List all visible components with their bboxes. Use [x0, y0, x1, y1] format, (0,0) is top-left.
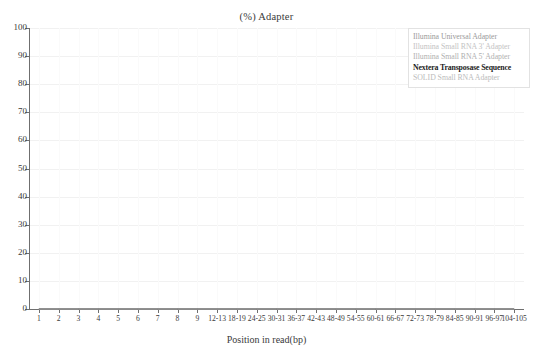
- x-tick-label: 72-73: [406, 315, 424, 323]
- adapter-content-chart: (%) Adapter 0102030405060708090100 12345…: [0, 0, 533, 354]
- y-tick-label: 10: [3, 276, 27, 285]
- x-axis-title: Position in read(bp): [0, 334, 533, 345]
- legend-item[interactable]: Illumina Universal Adapter: [413, 32, 527, 42]
- x-tick-mark: [138, 310, 139, 313]
- x-tick-mark: [39, 310, 40, 313]
- y-tick-label: 50: [3, 164, 27, 173]
- x-tick-mark: [118, 310, 119, 313]
- x-tick-label: 90-91: [466, 315, 484, 323]
- x-tick-mark: [158, 310, 159, 313]
- y-tick-label: 70: [3, 107, 27, 116]
- x-tick-mark: [316, 310, 317, 313]
- y-tick-label: 20: [3, 248, 27, 257]
- y-tick-label: 80: [3, 79, 27, 88]
- x-tick-label: 7: [156, 315, 160, 323]
- x-tick-label: 30-31: [268, 315, 286, 323]
- x-tick-label: 78-79: [426, 315, 444, 323]
- x-tick-mark: [494, 310, 495, 313]
- x-tick-label: 12-13: [208, 315, 226, 323]
- x-tick-mark: [277, 310, 278, 313]
- y-tick-label: 60: [3, 135, 27, 144]
- legend-item[interactable]: Nextera Transposase Sequence: [413, 63, 527, 73]
- x-tick-label: 36-37: [287, 315, 305, 323]
- x-tick-label: 48-49: [327, 315, 345, 323]
- x-tick-mark: [217, 310, 218, 313]
- y-tick-label: 0: [3, 304, 27, 313]
- x-tick-mark: [197, 310, 198, 313]
- x-tick-label: 18-19: [228, 315, 246, 323]
- x-tick-mark: [415, 310, 416, 313]
- y-tick-label: 100: [3, 23, 27, 32]
- x-tick-label: 1: [37, 315, 41, 323]
- y-tick-label: 40: [3, 192, 27, 201]
- x-tick-label: 60-61: [367, 315, 385, 323]
- x-tick-mark: [178, 310, 179, 313]
- x-tick-label: 104-105: [501, 315, 526, 323]
- x-tick-label: 42-43: [307, 315, 325, 323]
- x-tick-mark: [336, 310, 337, 313]
- x-tick-label: 24-25: [248, 315, 266, 323]
- x-tick-mark: [435, 310, 436, 313]
- x-tick-mark: [296, 310, 297, 313]
- x-tick-label: 2: [57, 315, 61, 323]
- legend: Illumina Universal AdapterIllumina Small…: [408, 28, 530, 88]
- x-tick-label: 6: [136, 315, 140, 323]
- x-tick-mark: [59, 310, 60, 313]
- x-tick-label: 66-67: [386, 315, 404, 323]
- x-tick-mark: [257, 310, 258, 313]
- legend-item[interactable]: Illumina Small RNA 3' Adapter: [413, 42, 527, 52]
- x-tick-mark: [376, 310, 377, 313]
- x-tick-mark: [79, 310, 80, 313]
- x-tick-mark: [237, 310, 238, 313]
- x-tick-mark: [356, 310, 357, 313]
- x-tick-label: 9: [195, 315, 199, 323]
- x-tick-label: 84-85: [446, 315, 464, 323]
- x-tick-mark: [475, 310, 476, 313]
- chart-title: (%) Adapter: [0, 11, 533, 22]
- x-tick-label: 5: [116, 315, 120, 323]
- x-tick-label: 4: [96, 315, 100, 323]
- x-tick-label: 3: [77, 315, 81, 323]
- y-tick-label: 30: [3, 220, 27, 229]
- x-tick-mark: [455, 310, 456, 313]
- legend-item[interactable]: Illumina Small RNA 5' Adapter: [413, 52, 527, 62]
- x-tick-mark: [395, 310, 396, 313]
- x-tick-label: 54-55: [347, 315, 365, 323]
- x-tick-mark: [98, 310, 99, 313]
- x-tick-mark: [514, 310, 515, 313]
- y-tick-label: 90: [3, 51, 27, 60]
- x-tick-label: 8: [176, 315, 180, 323]
- legend-item[interactable]: SOLID Small RNA Adapter: [413, 73, 527, 83]
